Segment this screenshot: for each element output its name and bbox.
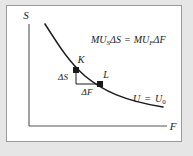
equation-mu-s: MU (90, 34, 107, 45)
curve-label-u0-subscript: 0 (162, 98, 166, 106)
point-k-marker (73, 67, 79, 73)
curve-label-u: U (133, 93, 141, 104)
delta-s-label: ΔS (57, 72, 68, 82)
x-axis-label: F (169, 120, 177, 132)
equation-delta-f: ΔF (153, 34, 167, 45)
point-l-label: L (102, 69, 109, 80)
y-axis-label: S (23, 9, 29, 21)
point-l-marker (97, 81, 103, 87)
marginal-utility-equation: MUSΔS=MUFΔF (90, 34, 166, 47)
equation-mu-f: MU (133, 34, 150, 45)
equation-equals: = (124, 34, 131, 45)
point-k-label: K (77, 54, 86, 65)
figure-panel: S F K L ΔS ΔF MUSΔS=MUFΔF (6, 5, 182, 142)
delta-f-label: ΔF (81, 87, 93, 97)
curve-label-equals: = (144, 93, 151, 104)
equation-delta-s: ΔS (109, 34, 121, 45)
indifference-curve-plot: S F K L ΔS ΔF MUSΔS=MUFΔF (7, 6, 181, 141)
figure-root: S F K L ΔS ΔF MUSΔS=MUFΔF (0, 0, 193, 156)
